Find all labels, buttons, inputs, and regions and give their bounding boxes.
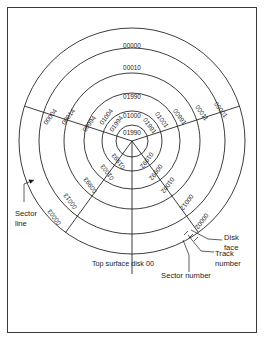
sector-label: 00001 [213, 100, 229, 119]
sector-label: 01994 [108, 114, 124, 133]
figure-caption: Top surface disk 00 [92, 259, 154, 268]
sector-label: 00014 [60, 107, 76, 126]
track-number-leader [188, 235, 214, 252]
sector-line-lower-left [66, 141, 132, 232]
sector-label: 01001 [154, 110, 170, 129]
sector-labels-upper-right: 01991 01001 00991 00011 00001 [142, 100, 229, 135]
sector-labels-lower-left: 01993 01003 00993 00013 00003 [46, 152, 126, 227]
sector-number-annotation: Sector number [161, 271, 211, 280]
disk-platter-diagram: 01990 01000 01990 00010 00000 01994 0100… [8, 8, 256, 332]
sector-number-label: Sector number [161, 271, 211, 280]
sector-label: 00013 [62, 192, 78, 211]
sector-line-leader [24, 180, 34, 202]
sector-label: 00994 [81, 114, 97, 133]
sector-label: 01991 [142, 116, 158, 135]
sector-labels-upper-left: 01994 01004 00994 00014 00004 [42, 107, 124, 133]
sector-label: 01990 [123, 129, 141, 136]
sector-line-annotation: Sector line [15, 180, 37, 228]
track-number-label: Track [215, 249, 234, 258]
sector-label: 00010 [123, 64, 141, 71]
sector-label: 01003 [99, 163, 115, 182]
track-number-label: number [215, 259, 241, 268]
sector-label: 00000 [123, 42, 141, 49]
sector-labels-top: 01990 01000 01990 00010 00000 [123, 42, 141, 136]
sector-line-label: line [15, 219, 27, 228]
sector-label: 01002 [160, 176, 176, 195]
sector-label: 01990 [123, 93, 141, 100]
disk-face-label: Disk [224, 233, 239, 242]
figure-frame: 01990 01000 01990 00010 00000 01994 0100… [7, 7, 257, 333]
sector-line-label: Sector [15, 209, 37, 218]
disk-face-leader [191, 230, 222, 240]
sector-label: 00993 [82, 176, 98, 195]
sector-label: 01000 [123, 112, 141, 119]
sector-number-leader [183, 240, 189, 272]
sector-label: 00002 [194, 212, 210, 231]
